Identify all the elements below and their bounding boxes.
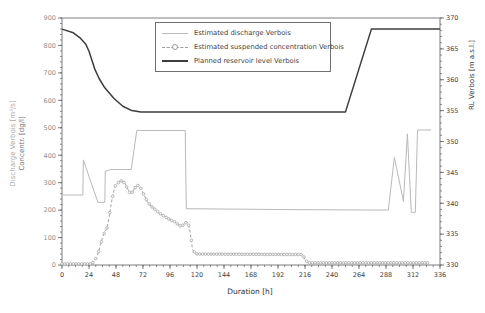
right-axis-title: RL Verbois [m a.s.l.] <box>468 15 476 135</box>
series-marker <box>424 262 427 265</box>
series-marker <box>80 263 83 266</box>
right-y-tick-label: 340 <box>446 200 458 208</box>
series-marker <box>266 253 269 256</box>
series-marker <box>320 262 323 265</box>
series-marker <box>207 253 210 256</box>
series-marker <box>280 253 283 256</box>
series-marker <box>111 195 114 198</box>
x-tick-label: 96 <box>166 271 174 279</box>
series-marker <box>294 253 297 256</box>
series-marker <box>185 221 188 224</box>
legend-label-concentration: Estimated suspended concentration Verboi… <box>194 43 344 51</box>
series-marker <box>215 253 218 256</box>
series-marker <box>353 262 356 265</box>
series-marker <box>187 224 190 227</box>
series-marker <box>407 262 410 265</box>
series-marker <box>218 253 221 256</box>
series-marker <box>291 253 294 256</box>
series-marker <box>162 214 165 217</box>
series-marker <box>106 227 109 230</box>
series-marker <box>384 262 387 265</box>
series-marker <box>328 262 331 265</box>
series-marker <box>182 224 185 227</box>
series-line-0 <box>62 130 431 212</box>
x-tick-label: 72 <box>139 271 147 279</box>
x-tick-label: 48 <box>112 271 120 279</box>
legend-entry-reservoir: Planned reservoir level Verbois <box>162 57 324 66</box>
series-marker <box>168 218 171 221</box>
series-marker <box>117 181 120 184</box>
series-marker <box>359 262 362 265</box>
series-marker <box>89 263 92 266</box>
series-marker <box>415 262 418 265</box>
series-marker <box>114 185 117 188</box>
series-marker <box>196 253 199 256</box>
series-marker <box>148 203 151 206</box>
series-marker <box>263 253 266 256</box>
right-y-tick-label: 350 <box>446 138 458 146</box>
left-y-tick-label: 500 <box>44 124 56 132</box>
series-marker <box>305 260 308 263</box>
series-marker <box>300 253 303 256</box>
x-tick-label: 312 <box>407 271 419 279</box>
left-y-tick-label: 800 <box>44 42 56 50</box>
series-marker <box>109 211 112 214</box>
series-marker <box>345 262 348 265</box>
series-marker <box>367 262 370 265</box>
right-y-tick-label: 345 <box>446 169 458 177</box>
series-marker <box>269 253 272 256</box>
x-tick-label: 216 <box>299 271 311 279</box>
series-marker <box>334 262 337 265</box>
series-marker <box>426 262 429 265</box>
series-marker <box>61 263 64 266</box>
series-marker <box>72 263 75 266</box>
series-marker <box>224 253 227 256</box>
series-marker <box>140 187 143 190</box>
series-marker <box>120 180 123 183</box>
series-marker <box>142 193 145 196</box>
left-axis-title-discharge: Discharge Verbois [m³/s] <box>9 73 18 213</box>
x-tick-label: 240 <box>326 271 338 279</box>
series-marker <box>283 253 286 256</box>
chart-figure: 0244872961201441681922162402642883123360… <box>0 0 485 313</box>
left-y-tick-label: 900 <box>44 14 56 22</box>
right-y-tick-label: 370 <box>446 14 458 22</box>
series-marker <box>342 262 345 265</box>
left-axis-title-concentration: Concentr. [dg/l] <box>18 73 27 213</box>
series-marker <box>238 253 241 256</box>
series-marker <box>165 216 168 219</box>
series-marker <box>365 262 368 265</box>
series-marker <box>201 253 204 256</box>
series-marker <box>381 262 384 265</box>
series-marker <box>314 262 317 265</box>
left-y-tick-label: 300 <box>44 179 56 187</box>
reservoir-line-sample-icon <box>162 57 188 66</box>
series-marker <box>260 253 263 256</box>
legend: Estimated discharge Verbois Estimated su… <box>155 22 331 72</box>
series-marker <box>159 213 162 216</box>
x-tick-label: 120 <box>191 271 203 279</box>
series-marker <box>64 263 67 266</box>
right-y-tick-label: 330 <box>446 261 458 269</box>
series-marker <box>173 220 176 223</box>
series-marker <box>123 181 126 184</box>
x-tick-label: 24 <box>85 271 93 279</box>
series-marker <box>356 262 359 265</box>
series-marker <box>412 262 415 265</box>
series-marker <box>210 253 213 256</box>
x-tick-label: 336 <box>434 271 446 279</box>
series-marker <box>390 262 393 265</box>
series-marker <box>154 208 157 211</box>
left-y-tick-label: 400 <box>44 152 56 160</box>
series-marker <box>297 253 300 256</box>
series-marker <box>286 253 289 256</box>
left-y-tick-label: 0 <box>52 261 56 269</box>
series-marker <box>255 253 258 256</box>
series-marker <box>311 262 314 265</box>
left-y-tick-label: 100 <box>44 234 56 242</box>
series-marker <box>398 262 401 265</box>
right-y-tick-label: 335 <box>446 230 458 238</box>
series-marker <box>331 262 334 265</box>
series-marker <box>86 263 89 266</box>
series-marker <box>103 232 106 235</box>
